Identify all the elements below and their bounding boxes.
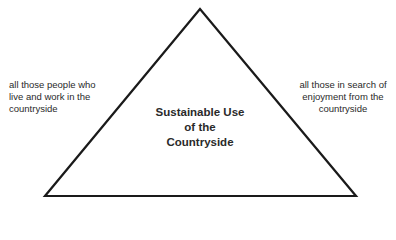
center-title: Sustainable Use of the Countryside xyxy=(140,105,260,150)
left-label-line: live and work in the xyxy=(9,91,139,103)
right-label-line: all those in search of xyxy=(292,79,394,91)
center-title-line: Countryside xyxy=(140,135,260,150)
left-label-line: all those people who xyxy=(9,79,139,91)
center-title-line: of the xyxy=(140,120,260,135)
right-label-line: countryside xyxy=(292,103,394,115)
center-title-line: Sustainable Use xyxy=(140,105,260,120)
right-label-line: enjoyment from the xyxy=(292,91,394,103)
right-label: all those in search of enjoyment from th… xyxy=(292,79,394,115)
left-label-line: countryside xyxy=(9,103,139,115)
left-label: all those people who live and work in th… xyxy=(9,79,139,115)
